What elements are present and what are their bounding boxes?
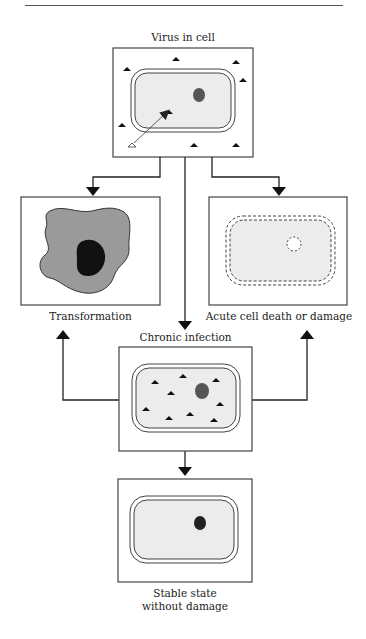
label-stable-state-line2: without damage (118, 600, 252, 613)
label-stable-state-line1: Stable state (118, 587, 252, 600)
transformation-panel (21, 197, 160, 305)
acute-cell-death-panel (209, 197, 347, 305)
virus-in-cell-panel (113, 48, 253, 157)
nucleus-icon (195, 383, 209, 399)
label-acute-cell-death: Acute cell death or damage (199, 310, 359, 323)
nucleus-icon (194, 516, 206, 530)
label-chronic-infection: Chronic infection (119, 331, 252, 344)
stable-state-panel (118, 479, 252, 582)
chronic-infection-panel (119, 347, 252, 451)
nucleus-icon (193, 88, 205, 102)
label-transformation: Transformation (21, 310, 160, 323)
damaged-nucleus-icon (287, 237, 301, 251)
label-virus-in-cell: Virus in cell (113, 31, 253, 44)
